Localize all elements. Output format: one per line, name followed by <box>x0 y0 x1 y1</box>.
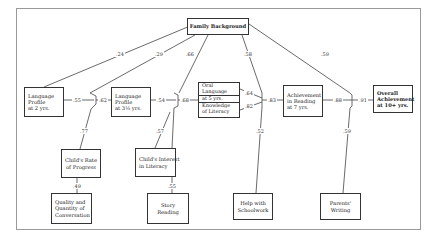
node-achievement-reading: Achievement in Reading at 7 yrs. <box>283 85 323 117</box>
node-text: in Literacy <box>139 163 172 169</box>
node-childs-interest-literacy: Child's Interest in Literacy <box>135 148 176 177</box>
coef-fb-lp2: .24 <box>115 51 125 57</box>
node-family-background: Family Background <box>187 18 249 35</box>
node-overall-achievement: Overall Achievement at 10+ yrs. <box>373 85 413 113</box>
coef-oral-reading: .64 <box>244 90 254 96</box>
node-parents-writing: Parents' Writing <box>320 193 361 220</box>
node-quality-conversation: Quality and Quantity of Conversation <box>51 193 92 224</box>
node-text: Writing <box>331 207 351 213</box>
node-knowledge-literacy: Knowledge of Literacy <box>199 103 239 115</box>
coef-fb-overall: .59 <box>320 51 330 57</box>
coef-lp2-lp3: .55 <box>72 97 82 103</box>
coef-interest-5yrs: .57 <box>155 128 165 134</box>
coef-quality-rate: .49 <box>72 183 82 189</box>
coef-help-reading: .52 <box>255 128 265 134</box>
node-language-profile-2yrs: Language Profile at 2 yrs. <box>24 87 64 117</box>
coef-lp3-5yrs: .54 <box>156 97 166 103</box>
coef-knowledge-reading: .82 <box>244 103 254 109</box>
path-diagram: Family Background Language Profile at 2 … <box>0 0 435 240</box>
node-text: of Progress <box>66 164 96 170</box>
node-text: of Literacy <box>202 109 236 115</box>
coef-reading-overall: .88 <box>333 97 343 103</box>
family-background-label: Family Background <box>190 23 247 29</box>
coef-story-interest: .55 <box>167 183 177 189</box>
node-5yrs-stack: Oral Language at 5 yrs. Knowledge of Lit… <box>198 82 240 118</box>
node-text: at 7 yrs. <box>287 104 319 110</box>
node-text: at 2 yrs. <box>28 105 60 111</box>
node-language-profile-3yrs: Language Profile at 3½ yrs. <box>111 87 151 117</box>
node-text: Schoolwork <box>238 207 269 213</box>
coef-5yrs-junction: .68 <box>180 97 190 103</box>
coef-overall-junction: .91 <box>358 97 368 103</box>
node-text: at 5 yrs. <box>202 95 223 101</box>
coef-rate-lp3: .77 <box>79 128 89 134</box>
node-story-reading: Story Reading <box>147 193 189 224</box>
coef-reading-junction: .83 <box>267 97 277 103</box>
coef-lp3-junction: .62 <box>98 97 108 103</box>
node-text: Reading <box>157 209 179 215</box>
node-childs-rate-of-progress: Child's Rate of Progress <box>61 149 101 178</box>
node-text: at 10+ yrs. <box>377 102 409 108</box>
coef-fb-lp3: .29 <box>154 51 164 57</box>
coef-fb-reading: .58 <box>243 51 253 57</box>
coef-writing-overall: .59 <box>342 128 352 134</box>
node-text: Conversation <box>55 212 88 218</box>
node-text: at 3½ yrs. <box>115 105 147 111</box>
node-help-schoolwork: Help with Schoolwork <box>233 193 273 220</box>
coef-fb-interest: .66 <box>185 51 195 57</box>
node-text: Language <box>202 89 236 95</box>
